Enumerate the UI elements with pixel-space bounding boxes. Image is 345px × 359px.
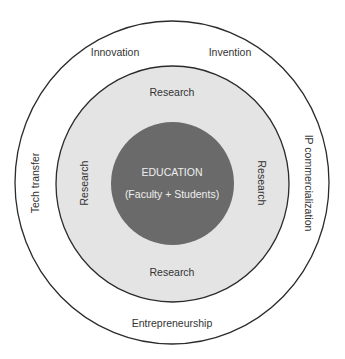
concentric-circles-diagram bbox=[0, 0, 345, 359]
outer-label-ip-commercialization: IP commercialization bbox=[303, 135, 315, 232]
outer-label-innovation: Innovation bbox=[91, 46, 139, 58]
outer-label-invention: Invention bbox=[209, 46, 252, 58]
middle-label-bottom: Research bbox=[150, 266, 195, 278]
middle-label-top: Research bbox=[150, 86, 195, 98]
inner-core bbox=[111, 122, 234, 245]
outer-label-entrepreneurship: Entrepreneurship bbox=[132, 317, 213, 329]
middle-label-left: Research bbox=[78, 161, 90, 206]
core-title: EDUCATION bbox=[141, 166, 202, 178]
middle-label-right: Research bbox=[256, 161, 268, 206]
outer-label-tech-transfer: Tech transfer bbox=[29, 153, 41, 214]
core-subtitle: (Faculty + Students) bbox=[125, 188, 219, 200]
